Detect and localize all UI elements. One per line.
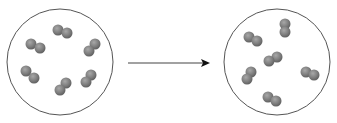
atom — [264, 56, 275, 67]
molecule — [53, 25, 73, 39]
molecule — [301, 67, 320, 81]
atom — [242, 74, 253, 85]
molecule — [242, 67, 257, 85]
atom — [35, 43, 46, 54]
molecule — [26, 39, 46, 54]
atom — [81, 77, 92, 88]
molecule — [55, 78, 72, 96]
atom — [252, 36, 263, 47]
molecule — [21, 66, 40, 84]
atom — [309, 70, 320, 81]
diagram-canvas — [0, 0, 337, 123]
molecule — [280, 19, 291, 38]
molecule — [84, 39, 101, 57]
molecule — [81, 70, 97, 88]
atom — [271, 96, 282, 107]
atom — [29, 73, 40, 84]
molecule — [264, 52, 283, 67]
atom — [280, 27, 291, 38]
molecule — [263, 92, 282, 107]
left-container — [7, 9, 113, 115]
atom — [62, 28, 73, 39]
right-container — [224, 9, 330, 115]
atom — [84, 46, 95, 57]
molecule — [244, 32, 263, 47]
atom — [55, 85, 66, 96]
process-arrow — [128, 59, 210, 67]
